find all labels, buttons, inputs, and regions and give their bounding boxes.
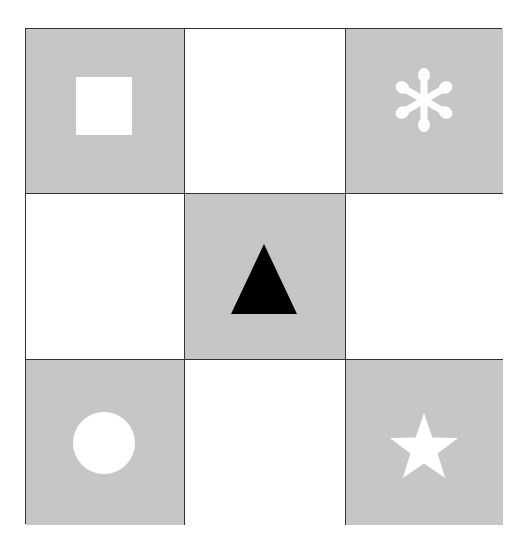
cell-r0-c2 — [346, 29, 503, 194]
cell-r2-c1 — [185, 360, 346, 525]
square-icon — [76, 77, 132, 135]
star-icon — [388, 413, 460, 481]
three-by-three-grid — [25, 28, 502, 524]
cell-r1-c2 — [346, 194, 503, 360]
cell-r0-c0 — [26, 29, 185, 194]
cell-r1-c0 — [26, 194, 185, 360]
cell-r0-c1 — [185, 29, 346, 194]
circle-icon — [73, 412, 135, 474]
cell-r1-c1 — [185, 194, 346, 360]
triangle-icon — [231, 244, 297, 314]
asterisk-icon — [393, 67, 455, 133]
cell-r2-c0 — [26, 360, 185, 525]
cell-r2-c2 — [346, 360, 503, 525]
